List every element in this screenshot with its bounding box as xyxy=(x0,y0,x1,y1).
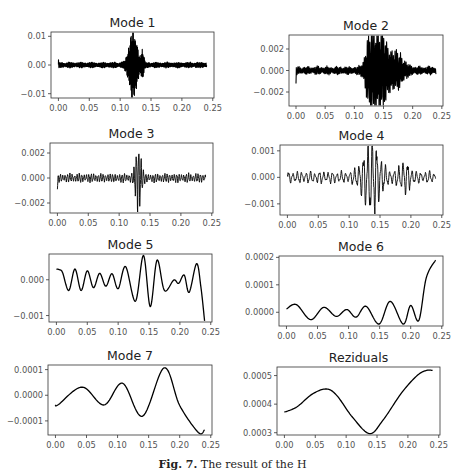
y-tick-label: 0.0004 xyxy=(243,399,272,409)
figure-caption: Fig. 7. The result of the H xyxy=(0,458,465,470)
x-tick-label: 0.25 xyxy=(430,440,448,450)
data-line xyxy=(284,370,432,434)
x-tick-label: 0.00 xyxy=(275,440,293,450)
y-tick-label: 0.0005 xyxy=(243,371,272,381)
caption-label: Fig. 7. xyxy=(159,458,198,470)
x-tick-label: 0.20 xyxy=(399,440,417,450)
caption-text: The result of the H xyxy=(197,458,306,470)
plot-area: 0.000.050.100.150.200.250.00050.00040.00… xyxy=(0,0,465,470)
y-tick-label: 0.0003 xyxy=(243,428,272,438)
x-tick-label: 0.05 xyxy=(306,440,324,450)
x-tick-label: 0.10 xyxy=(337,440,355,450)
x-tick-label: 0.15 xyxy=(368,440,386,450)
